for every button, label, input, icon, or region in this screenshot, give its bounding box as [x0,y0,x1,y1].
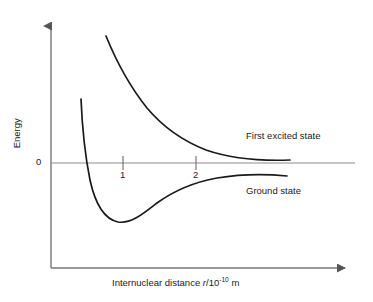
energy-vs-internuclear-distance-chart: Energy 0 1 2 First excited state Ground … [0,0,373,302]
ground-state-curve [81,99,287,222]
ground-state-label: Ground state [246,186,301,196]
x-axis-title-exponent: -10 [219,276,229,283]
x-tick-label-2: 2 [193,170,198,180]
y-axis-title: Energy [12,103,22,163]
first-excited-state-label: First excited state [246,131,320,141]
chart-plot-area [0,0,373,302]
x-axis-title: Internuclear distance r/10-10 m [112,278,239,288]
x-tick-label-1: 1 [120,170,125,180]
x-axis-title-divider: /10 [206,277,219,288]
x-axis-title-unit: m [229,277,240,288]
y-zero-tick-label: 0 [36,157,41,167]
first-excited-state-curve [106,36,290,160]
x-axis-title-prefix: Internuclear distance [112,277,203,288]
